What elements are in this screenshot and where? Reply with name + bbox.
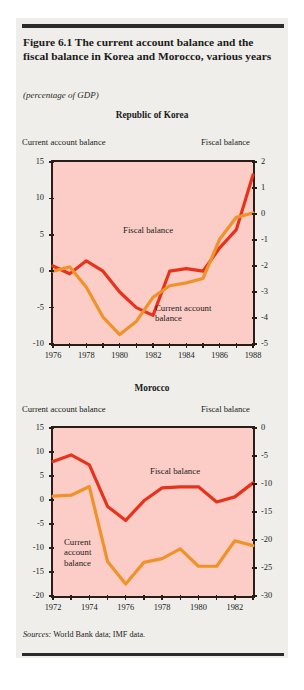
series-lines-morocco	[0, 0, 304, 690]
morocco-current-account-annotation: Current account balance	[64, 537, 91, 568]
y-tick-left	[49, 547, 54, 549]
y-tick-label-left: -15	[20, 567, 44, 576]
source-note: Sources: World Bank data; IMF data.	[23, 630, 145, 639]
y-tick-label-left: -10	[20, 543, 44, 552]
x-tick	[143, 595, 145, 600]
y-tick-right	[252, 567, 257, 569]
y-tick-label-right: -20	[261, 535, 285, 544]
x-tick	[107, 595, 109, 600]
y-tick-label-left: 10	[20, 447, 44, 456]
y-tick-left	[49, 475, 54, 477]
figure-page: Figure 6.1 The current account balance a…	[0, 0, 304, 690]
y-tick-left	[49, 451, 54, 453]
x-tick	[89, 595, 91, 600]
x-tick	[216, 595, 218, 600]
x-tick	[234, 595, 236, 600]
morocco-fiscal-balance-annotation: Fiscal balance	[150, 466, 200, 476]
series-line-fiscal-balance	[53, 455, 253, 521]
y-tick-left	[49, 427, 54, 429]
x-tick-label: 1972	[36, 603, 70, 612]
y-tick-label-right: -30	[261, 591, 285, 600]
y-tick-left	[49, 499, 54, 501]
x-tick	[252, 595, 254, 600]
x-tick	[180, 595, 182, 600]
y-tick-label-left: -5	[20, 519, 44, 528]
y-tick-label-left: 15	[20, 423, 44, 432]
y-tick-right	[252, 483, 257, 485]
y-tick-left	[49, 571, 54, 573]
y-tick-right	[252, 455, 257, 457]
x-tick-label: 1982	[218, 603, 252, 612]
x-tick	[125, 595, 127, 600]
y-tick-label-left: 5	[20, 471, 44, 480]
x-tick	[70, 595, 72, 600]
y-tick-left	[49, 523, 54, 525]
y-tick-label-left: 0	[20, 495, 44, 504]
y-tick-right	[252, 539, 257, 541]
y-tick-label-left: -20	[20, 591, 44, 600]
x-tick-label: 1974	[72, 603, 106, 612]
x-tick-label: 1980	[181, 603, 215, 612]
y-tick-label-right: -15	[261, 507, 285, 516]
y-tick-label-right: -10	[261, 479, 285, 488]
x-tick	[161, 595, 163, 600]
x-tick-label: 1978	[145, 603, 179, 612]
y-tick-right	[252, 511, 257, 513]
y-tick-label-right: -5	[261, 451, 285, 460]
x-tick	[52, 595, 54, 600]
source-prefix: Sources:	[23, 630, 51, 639]
y-tick-label-right: 0	[261, 423, 285, 432]
y-tick-right	[252, 427, 257, 429]
y-tick-label-right: -25	[261, 563, 285, 572]
source-text: World Bank data; IMF data.	[53, 630, 145, 639]
x-tick-label: 1976	[109, 603, 143, 612]
x-tick	[198, 595, 200, 600]
